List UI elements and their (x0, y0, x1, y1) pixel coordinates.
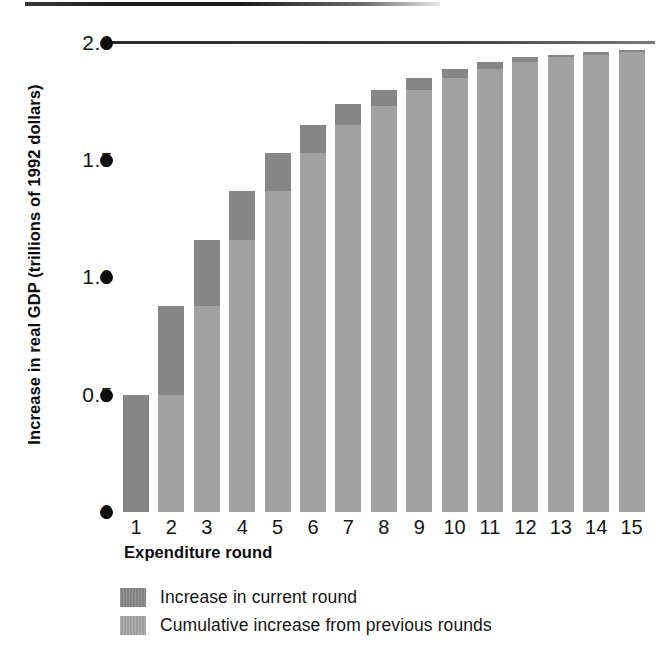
x-tick-label-2: 2 (154, 516, 188, 539)
current-round-swatch-icon (120, 588, 146, 607)
x-tick-label-13: 13 (544, 516, 578, 539)
bar-segment-previous-rounds-11 (477, 69, 503, 512)
bar-segment-previous-rounds-12 (512, 62, 538, 512)
legend-item-previous-rounds: Cumulative increase from previous rounds (120, 613, 492, 637)
bar-segment-previous-rounds-9 (406, 90, 432, 512)
x-tick-label-11: 11 (473, 516, 507, 539)
bar-segment-current-round-8 (371, 90, 397, 106)
bar-round-15 (619, 50, 645, 512)
bar-round-7 (335, 104, 361, 512)
bar-round-11 (477, 62, 503, 512)
x-tick-labels: 123456789101112131415 (123, 516, 643, 544)
bar-segment-current-round-10 (442, 69, 468, 78)
legend-item-current-round: Increase in current round (120, 585, 492, 609)
bar-round-9 (406, 78, 432, 512)
y-tick-dot-0-5 (100, 389, 113, 402)
bar-round-10 (442, 69, 468, 512)
bar-round-13 (548, 55, 574, 512)
y-tick-dot-0 (100, 506, 113, 519)
x-tick-label-6: 6 (296, 516, 330, 539)
bar-series-container (123, 0, 643, 512)
bar-segment-previous-rounds-14 (583, 55, 609, 512)
previous-rounds-swatch-icon (120, 616, 146, 635)
y-tick-dot-1-0 (100, 271, 113, 284)
bar-round-6 (300, 125, 326, 512)
y-axis-title: Increase in real GDP (trillions of 1992 … (25, 35, 44, 495)
x-tick-label-12: 12 (508, 516, 542, 539)
bar-round-14 (583, 52, 609, 512)
bar-segment-current-round-11 (477, 62, 503, 69)
bar-segment-current-round-2 (158, 306, 184, 395)
bar-segment-current-round-6 (300, 125, 326, 153)
bar-segment-previous-rounds-4 (229, 240, 255, 512)
bar-round-1 (123, 395, 149, 512)
x-tick-label-14: 14 (579, 516, 613, 539)
bar-round-5 (265, 153, 291, 512)
bar-segment-current-round-4 (229, 191, 255, 240)
y-tick-dot-1-5 (100, 154, 113, 167)
bar-segment-previous-rounds-13 (548, 57, 574, 512)
x-axis-title: Expenditure round (124, 543, 272, 562)
bar-round-8 (371, 90, 397, 512)
bar-segment-current-round-3 (194, 240, 220, 306)
x-tick-label-5: 5 (261, 516, 295, 539)
legend-label-current-round: Increase in current round (160, 587, 357, 608)
bar-segment-previous-rounds-3 (194, 306, 220, 512)
bar-round-2 (158, 306, 184, 512)
bar-round-3 (194, 240, 220, 512)
x-tick-label-10: 10 (438, 516, 472, 539)
bar-segment-previous-rounds-15 (619, 52, 645, 512)
x-tick-label-3: 3 (190, 516, 224, 539)
bar-segment-previous-rounds-7 (335, 125, 361, 512)
bar-segment-previous-rounds-6 (300, 153, 326, 512)
x-tick-label-8: 8 (367, 516, 401, 539)
x-tick-label-9: 9 (402, 516, 436, 539)
bar-segment-previous-rounds-5 (265, 191, 291, 512)
bar-segment-previous-rounds-8 (371, 106, 397, 512)
x-tick-label-15: 15 (615, 516, 649, 539)
bar-segment-current-round-5 (265, 153, 291, 191)
x-tick-label-1: 1 (119, 516, 153, 539)
chart-plot-area: 2.0 1.5 1.0 0.5 0 Increase in real GDP (… (0, 0, 664, 668)
bar-round-12 (512, 57, 538, 512)
bar-segment-current-round-1 (123, 395, 149, 512)
x-tick-label-7: 7 (331, 516, 365, 539)
bar-segment-current-round-9 (406, 78, 432, 90)
chart-legend: Increase in current round Cumulative inc… (120, 585, 492, 641)
bar-segment-previous-rounds-2 (158, 395, 184, 512)
x-tick-label-4: 4 (225, 516, 259, 539)
legend-label-previous-rounds: Cumulative increase from previous rounds (160, 615, 492, 636)
y-tick-dot-2-0 (100, 37, 113, 50)
bar-round-4 (229, 191, 255, 512)
bar-segment-previous-rounds-10 (442, 78, 468, 512)
bar-segment-current-round-7 (335, 104, 361, 125)
